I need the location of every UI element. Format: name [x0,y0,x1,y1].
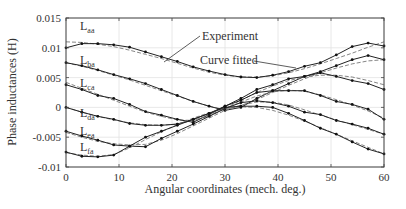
experiment-point [287,70,290,73]
experiment-point [271,83,274,86]
experiment-point [335,75,338,78]
experiment-point [160,137,163,140]
experiment-point [112,144,115,147]
y-tick-label: 0.005 [36,72,61,84]
experiment-point [160,124,163,127]
experiment-point [255,76,258,79]
experiment-point [96,115,99,118]
experiment-point [287,112,290,115]
experiment-point [240,76,243,79]
experiment-point [112,97,115,100]
experiment-point [271,106,274,109]
experiment-point [335,133,338,136]
experiment-point [208,105,211,108]
experiment-point [224,106,227,109]
experiment-point [176,118,179,121]
experiment-point [287,82,290,85]
experiment-point [240,99,243,102]
experiment-point [271,89,274,92]
experiment-point [112,73,115,76]
experiment-point [144,136,147,139]
experiment-point [192,123,195,126]
y-tick-label: -0.01 [38,161,61,173]
experiment-point [303,89,306,92]
x-axis-label: Angular coordinates (mech. deg.) [145,182,306,196]
experiment-point [319,71,322,74]
experiment-point [351,79,354,82]
experiment-point [128,46,131,49]
experiment-point [367,108,370,111]
experiment-point [335,100,338,103]
experiment-point [335,64,338,67]
experiment-point [255,97,258,100]
experiment-point [303,75,306,78]
y-axis-label: Phase inductances (H) [5,38,19,145]
experiment-point [351,45,354,48]
y-tick-label: 0.015 [36,12,61,24]
experiment-point [335,54,338,57]
y-tick-label: -0.005 [33,131,62,143]
experiment-point [128,122,131,125]
experiment-point [176,130,179,133]
experiment-point [240,105,243,108]
experiment-point [96,94,99,97]
series-label-l-da: Lda [80,106,95,122]
experiment-point [208,70,211,73]
experiment-point [176,94,179,97]
experiment-point [319,113,322,116]
experiment-point [192,100,195,103]
experiment-point [319,61,322,64]
experiment-point [255,88,258,91]
experiment-point [367,148,370,151]
experiment-point [303,111,306,114]
experiment-point [271,74,274,77]
series-labels: LaaLbaLcaLdaLeaLfa [80,19,95,156]
experiment-point [367,82,370,85]
experiment-point [96,68,99,71]
experiment-point [160,130,163,133]
experiment-point [176,124,179,127]
experiment-point [335,119,338,122]
experiment-point [160,114,163,117]
experiment-point [81,42,84,45]
experiment-point [208,115,211,118]
phase-inductance-chart: 01020304050600.0150.010.0050-0.005-0.01 … [0,0,406,209]
experiment-point [128,145,131,148]
experiment-annotation: Experiment [202,29,259,43]
x-tick-label: 0 [63,171,69,183]
experiment-point [208,112,211,115]
experiment-point [128,103,131,106]
experiment-point [224,73,227,76]
experiment-point [303,65,306,68]
series-label-l-aa: Laa [80,19,95,35]
experiment-point [351,103,354,106]
curve-fitted-annotation-pointer [254,61,296,68]
experiment-point [112,118,115,121]
experiment-point [128,77,131,80]
experiment-point [319,127,322,130]
experiment-point [351,123,354,126]
experiment-point [192,118,195,121]
experiment-point [271,101,274,104]
series-label-l-ba: Lba [80,53,95,69]
experiment-point [144,51,147,54]
y-tick-label: 0 [56,101,62,113]
experiment-point [176,60,179,63]
experiment-point [144,110,147,113]
experiment-point [367,42,370,45]
experiment-point [255,105,258,108]
experiment-point [144,124,147,127]
experiment-point [112,43,115,46]
experiment-point [81,155,84,158]
experiment-point [240,101,243,104]
experiment-annotation-pointer [164,36,200,62]
experiment-point [287,77,290,80]
experiment-point [96,155,99,158]
experiment-point [255,99,258,102]
experiment-point [192,65,195,68]
series-label-l-fa: Lfa [80,140,94,156]
experiment-point [367,54,370,57]
experiment-point [303,119,306,122]
experiment-point [351,58,354,61]
experiment-point [112,154,115,157]
